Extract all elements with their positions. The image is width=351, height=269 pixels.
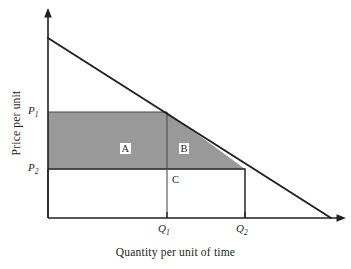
q2-subscript: 2 bbox=[244, 228, 248, 237]
economics-figure: Price per unit Quantity per unit of time… bbox=[0, 0, 351, 269]
y-axis-arrow-icon bbox=[44, 8, 52, 18]
p2-symbol: P bbox=[28, 161, 35, 173]
q1-symbol: Q bbox=[158, 222, 166, 234]
p1-subscript: 1 bbox=[35, 110, 39, 119]
region-c-outline bbox=[48, 169, 245, 218]
region-label-c: C bbox=[172, 174, 179, 185]
region-a-shape bbox=[48, 112, 167, 169]
demand-curve-diagram bbox=[0, 0, 351, 269]
q1-subscript: 1 bbox=[166, 228, 170, 237]
x-axis-title: Quantity per unit of time bbox=[0, 246, 351, 258]
x-tick-label-q2: Q2 bbox=[236, 222, 248, 237]
y-axis-title: Price per unit bbox=[10, 63, 22, 183]
region-label-b: B bbox=[179, 143, 189, 154]
x-tick-label-q1: Q1 bbox=[158, 222, 170, 237]
p2-subscript: 2 bbox=[35, 167, 39, 176]
x-axis-arrow-icon bbox=[337, 214, 347, 222]
region-label-a: A bbox=[120, 143, 131, 154]
q2-symbol: Q bbox=[236, 222, 244, 234]
y-tick-label-p1: P1 bbox=[28, 104, 38, 119]
p1-symbol: P bbox=[28, 104, 35, 116]
y-tick-label-p2: P2 bbox=[28, 161, 38, 176]
